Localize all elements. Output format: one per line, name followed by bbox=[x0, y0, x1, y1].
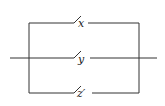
switch-label-z-prime: z′ bbox=[76, 87, 86, 100]
circuit-diagram: x y z′ bbox=[0, 0, 165, 106]
switch-label-x: x bbox=[78, 17, 85, 30]
switch-label-y: y bbox=[77, 53, 85, 66]
